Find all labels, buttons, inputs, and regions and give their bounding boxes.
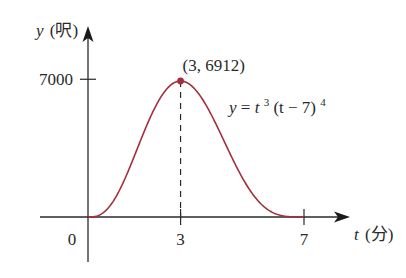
function-label: y = t 3 (t − 7) 4: [227, 91, 326, 117]
function-lhs: y: [227, 98, 237, 117]
y-axis-var: y: [34, 21, 44, 40]
x-tick-label: 0: [68, 230, 77, 249]
chart: (3, 6912) y (呎) t (分) y = t 3 (t − 7) 4 …: [0, 0, 406, 278]
y-axis-unit: (呎): [50, 21, 78, 40]
peak-label: (3, 6912): [183, 56, 245, 75]
x-axis-label: t (分): [354, 225, 393, 244]
function-mid: (t − 7): [273, 98, 316, 117]
function-exp2: 4: [320, 96, 326, 108]
y-axis-label: y (呎): [34, 21, 78, 40]
y-tick-label: 7000: [39, 70, 73, 89]
x-axis-unit: (分): [365, 225, 393, 244]
peak-point: [177, 78, 184, 85]
function-exp1: 3: [264, 96, 270, 108]
function-eq: =: [241, 98, 255, 117]
x-axis-var: t: [354, 225, 360, 244]
function-t: t: [255, 98, 261, 117]
x-tick-label: 3: [176, 230, 185, 249]
x-tick-label: 7: [300, 230, 309, 249]
